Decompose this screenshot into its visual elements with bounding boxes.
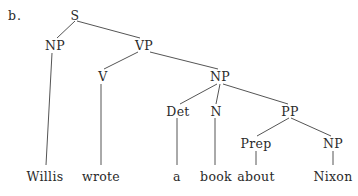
edge-s-np <box>57 21 75 38</box>
word-a: a <box>173 170 181 184</box>
example-label: b. <box>8 9 22 23</box>
node-np-subject: NP <box>45 39 65 53</box>
edge-s-vp <box>77 21 140 38</box>
word-wrote: wrote <box>82 170 120 184</box>
edge-vp-np <box>150 52 218 69</box>
node-prep: Prep <box>241 137 272 151</box>
edge-np-willis <box>46 53 52 165</box>
edge-np-det <box>180 84 217 104</box>
word-about: about <box>237 170 275 184</box>
node-s: S <box>71 9 80 23</box>
edge-pp-prep <box>257 118 289 136</box>
edge-np-pp <box>223 84 288 104</box>
word-nixon: Nixon <box>313 170 352 184</box>
tree-edges <box>0 0 358 196</box>
edge-vp-v <box>104 52 138 69</box>
node-v: V <box>98 70 107 84</box>
node-pp: PP <box>281 105 298 119</box>
node-np-pp-object: NP <box>323 137 343 151</box>
node-vp: VP <box>135 39 153 53</box>
node-n: N <box>210 105 221 119</box>
node-det: Det <box>166 105 189 119</box>
edge-np-n <box>216 84 220 104</box>
node-np-object: NP <box>210 70 230 84</box>
word-book: book <box>200 170 232 184</box>
edge-pp-np <box>291 118 331 136</box>
word-willis: Willis <box>27 170 64 184</box>
